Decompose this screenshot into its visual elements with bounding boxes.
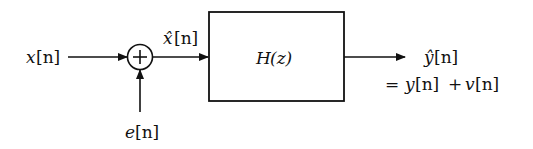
input-signal-label: x [n] [26, 47, 60, 67]
input-symbol: x [26, 47, 36, 67]
intermediate-symbol: x̂ [163, 28, 173, 48]
system-arg: (z) [270, 48, 292, 68]
input-index: [n] [36, 47, 60, 67]
noise-index: [n] [135, 122, 159, 142]
eq-y-index: [n] [415, 74, 439, 94]
eq-v-symbol: v [465, 74, 475, 94]
noise-signal-label: e [n] [125, 122, 159, 142]
output-index: [n] [434, 47, 458, 67]
output-signal-label: ŷ [n] [423, 47, 458, 67]
system-block-label: H (z) [255, 48, 292, 68]
intermediate-signal-label: x̂ [n] [163, 28, 198, 48]
output-symbol: ŷ [423, 47, 434, 67]
noise-symbol: e [125, 122, 135, 142]
plus-sign: + [448, 74, 462, 94]
equals-sign: = [385, 74, 399, 94]
block-diagram: x [n] e [n] x̂ [n] H (z) ŷ [n] = y [n] +… [0, 0, 533, 149]
summing-junction [128, 45, 153, 70]
output-equation: = y [n] + v [n] [385, 74, 499, 94]
eq-v-index: [n] [475, 74, 499, 94]
intermediate-index: [n] [174, 28, 198, 48]
eq-y-symbol: y [404, 74, 415, 94]
